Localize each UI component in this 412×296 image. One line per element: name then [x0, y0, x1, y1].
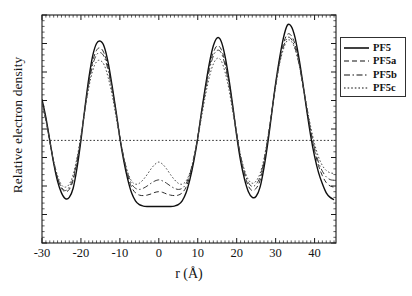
- legend-item-pf5: PF5: [343, 41, 403, 54]
- legend-label: PF5c: [373, 82, 396, 94]
- series-line-pf5c: [42, 40, 334, 187]
- legend-line-sample: [343, 69, 370, 81]
- legend-item-pf5c: PF5c: [343, 82, 403, 95]
- legend-label: PF5: [373, 42, 391, 54]
- data-series-group: [42, 24, 334, 206]
- legend-item-pf5b: PF5b: [343, 68, 403, 81]
- legend-label: PF5a: [373, 55, 396, 67]
- legend-line-sample: [343, 42, 370, 54]
- legend-line-sample: [343, 55, 370, 67]
- figure-container: Relative electron density -30-20-1001020…: [0, 0, 412, 296]
- series-line-pf5a: [42, 34, 334, 196]
- legend-line-sample: [343, 82, 370, 94]
- axis-ticks: [42, 15, 336, 243]
- axes-frame: [42, 15, 336, 243]
- series-line-pf5b: [42, 37, 334, 190]
- legend-label: PF5b: [373, 69, 397, 81]
- legend-item-pf5a: PF5a: [343, 55, 403, 68]
- x-axis-label: r (Å): [42, 266, 336, 282]
- chart-legend: PF5PF5aPF5bPF5c: [340, 37, 406, 97]
